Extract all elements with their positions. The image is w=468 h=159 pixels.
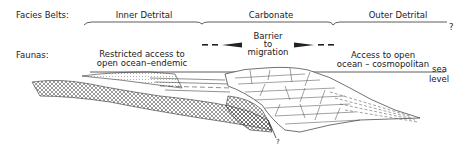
facies-brace-lines [84,22,447,25]
cross-section-diagram [0,0,468,159]
barrier-arrows [202,43,334,48]
